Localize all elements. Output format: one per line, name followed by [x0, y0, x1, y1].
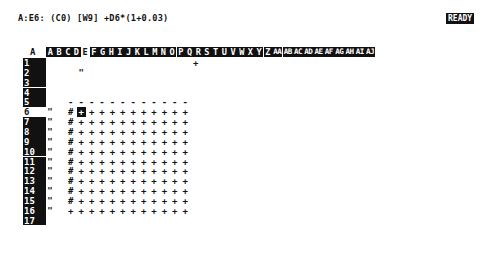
cell-k12[interactable]: + [139, 166, 148, 176]
column-header-af[interactable]: AF [324, 47, 334, 57]
row-header-16[interactable]: 16 [23, 206, 46, 216]
column-header-t[interactable]: T [211, 47, 220, 57]
cell-k14[interactable]: + [139, 186, 148, 196]
cell-n7[interactable]: + [170, 117, 179, 127]
column-header-j[interactable]: J [124, 47, 133, 57]
column-header-i[interactable]: I [116, 47, 125, 57]
cell-d10[interactable]: # [66, 147, 75, 157]
cell-g13[interactable]: + [98, 176, 107, 186]
cell-j14[interactable]: + [129, 186, 138, 196]
cell-f14[interactable]: + [87, 186, 96, 196]
cell-i7[interactable]: + [118, 117, 127, 127]
cell-m11[interactable]: + [160, 157, 169, 167]
column-header-aj[interactable]: AJ [365, 47, 375, 57]
column-header-q[interactable]: Q [185, 47, 194, 57]
cell-n5[interactable]: - [170, 97, 179, 107]
column-header-k[interactable]: K [133, 47, 142, 57]
cell-l8[interactable]: + [150, 127, 159, 137]
cell-f12[interactable]: + [87, 166, 96, 176]
cell-b9[interactable]: " [46, 137, 55, 147]
cell-i16[interactable]: + [118, 206, 127, 216]
cell-b8[interactable]: " [46, 127, 55, 137]
cell-l10[interactable]: + [150, 147, 159, 157]
cell-n10[interactable]: + [170, 147, 179, 157]
cell-m15[interactable]: + [160, 196, 169, 206]
column-header-ah[interactable]: AH [344, 47, 354, 57]
cell-h13[interactable]: + [108, 176, 117, 186]
column-header-u[interactable]: U [220, 47, 229, 57]
cell-j8[interactable]: + [129, 127, 138, 137]
cell-e13[interactable]: + [77, 176, 86, 186]
cell-g10[interactable]: + [98, 147, 107, 157]
cell-k8[interactable]: + [139, 127, 148, 137]
cell-o9[interactable]: + [181, 137, 190, 147]
cell-f5[interactable]: - [87, 97, 96, 107]
cell-i13[interactable]: + [118, 176, 127, 186]
row-header-6[interactable]: 6 [23, 107, 46, 117]
cell-n8[interactable]: + [170, 127, 179, 137]
cell-g7[interactable]: + [98, 117, 107, 127]
row-header-13[interactable]: 13 [23, 176, 46, 186]
column-header-ac[interactable]: AC [293, 47, 303, 57]
cell-h15[interactable]: + [108, 196, 117, 206]
row-header-7[interactable]: 7 [23, 117, 46, 127]
cell-e5[interactable]: - [77, 97, 86, 107]
cell-cursor[interactable]: + [77, 107, 86, 117]
cell-n6[interactable]: + [170, 107, 179, 117]
cell-b12[interactable]: " [46, 166, 55, 176]
row-header-4[interactable]: 4 [23, 88, 46, 98]
cell-f16[interactable]: + [87, 206, 96, 216]
column-header-e[interactable]: E [81, 47, 90, 57]
cell-b6[interactable]: " [46, 107, 55, 117]
cell-i8[interactable]: + [118, 127, 127, 137]
column-header-f[interactable]: F [90, 47, 99, 57]
cell-m7[interactable]: + [160, 117, 169, 127]
cell-k10[interactable]: + [139, 147, 148, 157]
row-header-8[interactable]: 8 [23, 127, 46, 137]
cell-i12[interactable]: + [118, 166, 127, 176]
column-header-r[interactable]: R [194, 47, 203, 57]
cell-b14[interactable]: " [46, 186, 55, 196]
cell-e8[interactable]: + [77, 127, 86, 137]
cell-k11[interactable]: + [139, 157, 148, 167]
cell-g15[interactable]: + [98, 196, 107, 206]
cell-o13[interactable]: + [181, 176, 190, 186]
cell-f6[interactable]: + [87, 107, 96, 117]
cell-j10[interactable]: + [129, 147, 138, 157]
cell-e16[interactable]: + [77, 206, 86, 216]
cell-g8[interactable]: + [98, 127, 107, 137]
cell-f13[interactable]: + [87, 176, 96, 186]
row-header-5[interactable]: 5 [23, 97, 46, 107]
cell-l13[interactable]: + [150, 176, 159, 186]
cell-n11[interactable]: + [170, 157, 179, 167]
cell-i10[interactable]: + [118, 147, 127, 157]
cell-e15[interactable]: + [77, 196, 86, 206]
cell-h8[interactable]: + [108, 127, 117, 137]
column-header-v[interactable]: V [229, 47, 238, 57]
cell-h6[interactable]: + [108, 107, 117, 117]
cell-m8[interactable]: + [160, 127, 169, 137]
row-header-10[interactable]: 10 [23, 147, 46, 157]
cell-f9[interactable]: + [87, 137, 96, 147]
cell-k7[interactable]: + [139, 117, 148, 127]
cell-o10[interactable]: + [181, 147, 190, 157]
cell-j12[interactable]: + [129, 166, 138, 176]
cell-o6[interactable]: + [181, 107, 190, 117]
column-header-ab[interactable]: AB [283, 47, 293, 57]
cell-p1[interactable]: + [191, 58, 200, 68]
cell-d12[interactable]: # [66, 166, 75, 176]
cell-m16[interactable]: + [160, 206, 169, 216]
cell-m10[interactable]: + [160, 147, 169, 157]
row-header-14[interactable]: 14 [23, 186, 46, 196]
cell-k16[interactable]: + [139, 206, 148, 216]
cell-e9[interactable]: + [77, 137, 86, 147]
cell-n15[interactable]: + [170, 196, 179, 206]
cell-d13[interactable]: # [66, 176, 75, 186]
cell-e11[interactable]: + [77, 157, 86, 167]
column-header-ad[interactable]: AD [303, 47, 313, 57]
cell-j7[interactable]: + [129, 117, 138, 127]
cell-f10[interactable]: + [87, 147, 96, 157]
cell-g12[interactable]: + [98, 166, 107, 176]
row-header-2[interactable]: 2 [23, 68, 46, 78]
cell-o11[interactable]: + [181, 157, 190, 167]
